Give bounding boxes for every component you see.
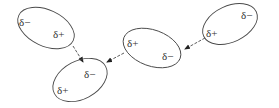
partial-negative-label: δ− xyxy=(84,68,95,80)
partial-positive-label: δ+ xyxy=(206,27,217,39)
interaction-arrow xyxy=(185,38,205,49)
molecule-outline xyxy=(11,0,81,57)
molecules-layer: δ−δ+δ−δ+δ+δ−δ−δ+ xyxy=(11,0,264,108)
molecule: δ−δ+ xyxy=(11,0,81,57)
partial-positive-label: δ+ xyxy=(57,84,68,96)
partial-negative-label: δ− xyxy=(19,16,30,28)
molecule: δ+δ− xyxy=(118,21,187,75)
partial-positive-label: δ+ xyxy=(53,28,64,40)
molecule: δ−δ+ xyxy=(196,0,264,53)
partial-negative-label: δ− xyxy=(162,50,173,62)
molecule: δ−δ+ xyxy=(45,50,114,108)
interaction-arrow xyxy=(107,53,124,62)
partial-negative-label: δ− xyxy=(241,9,252,21)
molecule-outline xyxy=(45,50,114,108)
partial-positive-label: δ+ xyxy=(127,37,138,49)
dipole-interaction-diagram: δ−δ+δ−δ+δ+δ−δ−δ+ xyxy=(0,0,279,108)
